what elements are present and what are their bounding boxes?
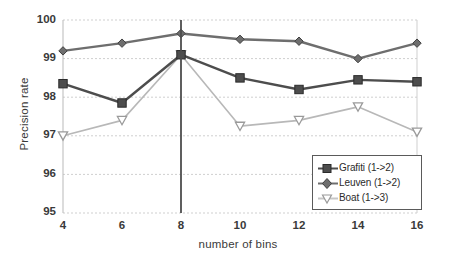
data-point bbox=[413, 78, 421, 86]
legend-label-boat: Boat (1->3) bbox=[339, 192, 388, 203]
precision-rate-line-chart: Precision rate number of bins 100 99 98 … bbox=[0, 0, 459, 265]
data-point bbox=[295, 85, 303, 93]
series-leuven bbox=[59, 29, 421, 62]
data-point bbox=[118, 99, 126, 107]
triangle-down-marker-icon bbox=[317, 191, 339, 204]
legend-label-leuven: Leuven (1->2) bbox=[339, 177, 400, 188]
legend-item-boat: Boat (1->3) bbox=[317, 190, 418, 205]
data-point bbox=[58, 132, 67, 140]
legend-item-grafiti: Grafiti (1->2) bbox=[317, 160, 418, 175]
data-point bbox=[236, 74, 244, 82]
data-point bbox=[59, 47, 67, 55]
data-point bbox=[412, 128, 421, 136]
data-point bbox=[413, 39, 421, 47]
chart-legend: Grafiti (1->2) Leuven (1->2) Boat (1->3) bbox=[312, 155, 422, 210]
data-point bbox=[59, 79, 67, 87]
diamond-marker-icon bbox=[317, 176, 339, 189]
data-point bbox=[118, 39, 126, 47]
plot-area bbox=[0, 0, 459, 265]
data-point bbox=[354, 76, 362, 84]
data-series-layer bbox=[58, 29, 421, 140]
data-point bbox=[354, 54, 362, 62]
legend-label-grafiti: Grafiti (1->2) bbox=[339, 162, 394, 173]
series-boat bbox=[58, 51, 421, 140]
data-point bbox=[295, 37, 303, 45]
data-point bbox=[236, 35, 244, 43]
legend-item-leuven: Leuven (1->2) bbox=[317, 175, 418, 190]
square-marker-icon bbox=[317, 161, 339, 174]
